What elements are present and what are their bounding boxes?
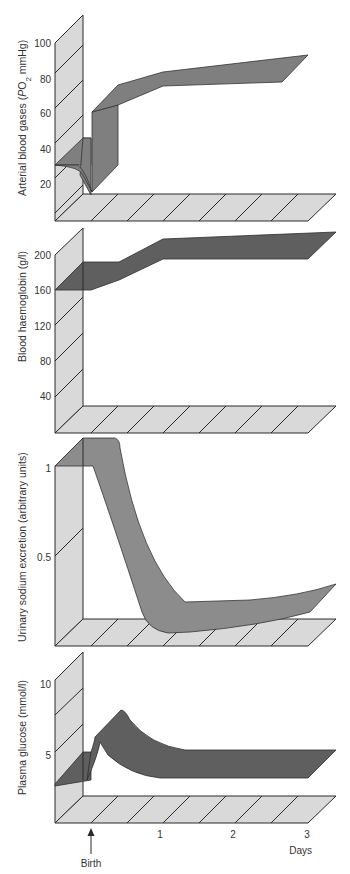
p2-ytick-120: 120 — [34, 321, 51, 332]
birth-label: Birth — [81, 858, 102, 869]
p3-ytick-1: 1 — [45, 463, 51, 474]
xtick-3: 3 — [304, 829, 310, 840]
p2-ytick-80: 80 — [40, 356, 52, 367]
xlabel-days: Days — [289, 845, 312, 856]
p2-band — [55, 232, 336, 290]
panel-plasma-glucose: 10 5 Plasma glucose (mmol/l) 1 2 3 Days … — [16, 652, 336, 869]
p2-ytick-200: 200 — [34, 250, 51, 261]
panel-arterial-blood-gases: 100 80 60 40 20 Arterial blood gases (PO… — [16, 15, 336, 221]
xtick-2: 2 — [230, 829, 236, 840]
p2-ytick-40: 40 — [40, 391, 52, 402]
chart-canvas: 100 80 60 40 20 Arterial blood gases (PO… — [0, 0, 350, 874]
p3-ytick-0.5: 0.5 — [37, 552, 51, 563]
panel-blood-haemoglobin: 200 160 120 80 40 Blood haemoglobin (g/l… — [16, 228, 336, 433]
p1-ylabel: Arterial blood gases (PO2 mmHg) — [16, 40, 33, 196]
p1-ytick-40: 40 — [40, 144, 52, 155]
p2-ylabel: Blood haemoglobin (g/l) — [16, 251, 28, 362]
p4-band — [87, 710, 336, 780]
p4-ytick-10: 10 — [40, 679, 52, 690]
p1-ytick-80: 80 — [40, 74, 52, 85]
panel-urinary-sodium: 1 0.5 Urinary sodium excretion (arbitrar… — [16, 438, 336, 646]
p4-ylabel: Plasma glucose (mmol/l) — [16, 680, 28, 795]
p3-ylabel: Urinary sodium excretion (arbitrary unit… — [16, 452, 28, 642]
p1-ytick-20: 20 — [40, 179, 52, 190]
p1-ytick-60: 60 — [40, 108, 52, 119]
birth-arrow-icon — [88, 828, 95, 854]
p3-band — [55, 438, 336, 633]
p1-ytick-100: 100 — [34, 38, 51, 49]
p2-left-wall — [55, 228, 83, 433]
p1-band-plateau — [92, 55, 308, 112]
p1-band-rise-side — [92, 105, 118, 192]
xtick-1: 1 — [157, 829, 163, 840]
p2-ytick-160: 160 — [34, 285, 51, 296]
p4-ytick-5: 5 — [45, 750, 51, 761]
p1-left-wall — [55, 15, 83, 221]
